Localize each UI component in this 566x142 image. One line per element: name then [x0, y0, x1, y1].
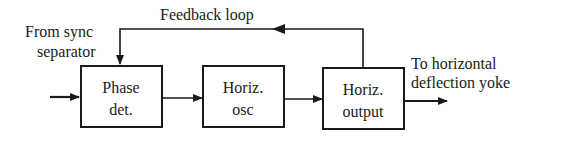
horiz-output-label-1: Horiz.: [343, 81, 383, 98]
output-label-2: deflection yoke: [411, 74, 510, 92]
input-label-1: From sync: [25, 23, 93, 41]
horiz-osc-label-2: osc: [232, 101, 253, 118]
phase-det-label-2: det.: [109, 101, 133, 118]
feedback-loop-line: [120, 29, 363, 68]
feedback-loop-label: Feedback loop: [160, 6, 254, 24]
block-diagram: Phase det. Horiz. osc Horiz. output Feed…: [0, 0, 566, 142]
input-label-2: separator: [37, 43, 96, 61]
horiz-output-label-2: output: [343, 103, 384, 121]
feedback-direction-arrow: [272, 24, 285, 34]
phase-det-label-1: Phase: [102, 79, 139, 96]
horiz-osc-label-1: Horiz.: [223, 79, 263, 96]
output-label-1: To horizontal: [411, 55, 497, 72]
